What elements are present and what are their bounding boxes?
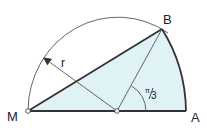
point-O <box>115 109 120 114</box>
label-B: B <box>163 12 172 27</box>
diagram-canvas: M A B r π 3 <box>0 0 207 133</box>
label-M: M <box>7 109 18 124</box>
label-r: r <box>61 56 65 70</box>
label-A: A <box>191 110 200 125</box>
angle-numerator: π <box>145 87 150 94</box>
geometry-diagram: M A B r π 3 <box>0 0 207 133</box>
angle-denominator: 3 <box>151 90 157 101</box>
shaded-sector <box>28 29 186 111</box>
point-M <box>26 109 31 114</box>
